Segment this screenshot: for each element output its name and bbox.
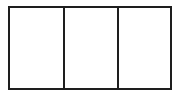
panel-left [10, 8, 65, 88]
three-panel-rectangle [8, 6, 172, 90]
panel-middle [65, 8, 119, 88]
panel-right [119, 8, 170, 88]
